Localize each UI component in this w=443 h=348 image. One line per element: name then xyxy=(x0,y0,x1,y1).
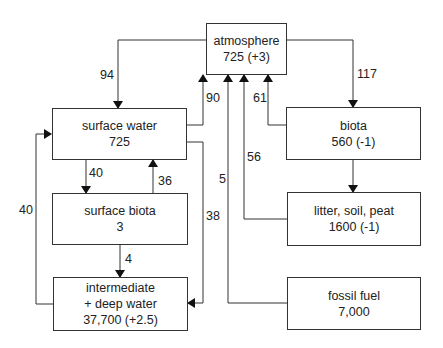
node-surface-biota-value: 3 xyxy=(117,219,124,235)
node-biota: biota 560 (-1) xyxy=(286,107,421,160)
node-surface-water-name: surface water xyxy=(82,118,157,134)
flow-label-56: 56 xyxy=(247,150,261,164)
node-litter-soil-peat: litter, soil, peat 1600 (-1) xyxy=(287,192,421,246)
node-fossil-fuel-name: fossil fuel xyxy=(328,288,380,304)
node-deep-water: intermediate + deep water 37,700 (+2.5) xyxy=(53,277,188,331)
flow-label-40-left: 40 xyxy=(19,203,33,217)
flow-label-36: 36 xyxy=(158,174,172,188)
flow-label-90: 90 xyxy=(206,91,220,105)
flow-label-117: 117 xyxy=(357,67,377,81)
node-deep-water-name: intermediate xyxy=(86,280,155,296)
node-atmosphere-name: atmosphere xyxy=(213,33,279,49)
node-fossil-fuel-value: 7,000 xyxy=(338,304,369,320)
flow-label-38: 38 xyxy=(206,209,220,223)
node-litter-name: litter, soil, peat xyxy=(314,203,394,219)
node-atmosphere-value: 725 (+3) xyxy=(223,49,270,65)
node-surface-biota: surface biota 3 xyxy=(52,193,188,245)
node-fossil-fuel: fossil fuel 7,000 xyxy=(287,277,421,330)
node-biota-name: biota xyxy=(340,118,367,134)
node-biota-value: 560 (-1) xyxy=(332,134,376,150)
node-atmosphere: atmosphere 725 (+3) xyxy=(206,23,287,75)
node-litter-value: 1600 (-1) xyxy=(329,219,380,235)
node-deep-water-name2: + deep water xyxy=(84,296,157,312)
flow-label-4: 4 xyxy=(125,252,132,266)
node-surface-water-value: 725 xyxy=(109,134,130,150)
flow-label-61: 61 xyxy=(253,91,267,105)
node-deep-water-value: 37,700 (+2.5) xyxy=(83,312,158,328)
node-surface-water: surface water 725 xyxy=(52,108,187,160)
flow-label-5: 5 xyxy=(219,172,226,186)
flow-label-40-down: 40 xyxy=(89,166,103,180)
flow-label-94: 94 xyxy=(100,68,114,82)
node-surface-biota-name: surface biota xyxy=(84,203,156,219)
